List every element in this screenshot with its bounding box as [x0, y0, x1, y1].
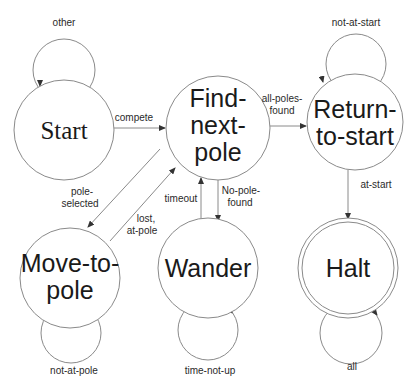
edge-label-no-pole-found-line2: found: [227, 197, 252, 208]
edge-label-all-poles-found-line1: all-poles-: [262, 93, 303, 104]
edge-label-at-start: at-start: [360, 179, 391, 190]
state-label: pole: [46, 276, 93, 304]
state-label: Wander: [165, 254, 252, 282]
edge-label-no-pole-found-line1: No-pole-: [222, 185, 260, 196]
state-diagram: Start Find- next- pole Return- to-start …: [0, 0, 418, 389]
state-label: Move-to-: [21, 249, 120, 277]
state-wander: Wander: [158, 218, 258, 318]
edge-label-compete: compete: [115, 112, 154, 123]
state-halt: Halt: [298, 218, 398, 318]
edge-label-all-poles-found-line2: found: [269, 105, 294, 116]
state-find-next-pole: Find- next- pole: [166, 76, 270, 180]
edge-label-pole-selected-line1: pole-: [71, 186, 93, 197]
state-label: to-start: [316, 122, 394, 150]
state-return-to-start: Return- to-start: [307, 74, 403, 170]
state-move-to-pole: Move-to- pole: [20, 228, 120, 328]
edge-label-timeout: timeout: [165, 193, 198, 204]
state-label: pole: [194, 138, 241, 166]
state-start: Start: [14, 80, 114, 180]
self-loop-label-all: all: [347, 361, 357, 372]
self-loop-label-not-at-start: not-at-start: [332, 17, 381, 28]
edge-label-pole-selected-line2: selected: [61, 198, 98, 209]
edge-label-lost-at-pole-line1: lost,: [137, 213, 155, 224]
state-label: Return-: [313, 95, 396, 123]
state-label: Find-: [190, 84, 247, 112]
state-label: next-: [190, 111, 246, 139]
self-loop-label-not-at-pole: not-at-pole: [50, 365, 98, 376]
state-label: Start: [40, 117, 87, 144]
edge-label-lost-at-pole-line2: at-pole: [127, 225, 158, 236]
self-loop-label-other: other: [53, 17, 76, 28]
self-loop-label-time-not-up: time-not-up: [185, 365, 236, 376]
state-label: Halt: [326, 254, 371, 282]
